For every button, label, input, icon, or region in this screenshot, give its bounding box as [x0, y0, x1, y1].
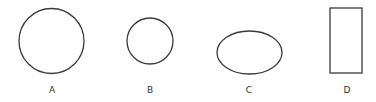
rectangle-d [330, 8, 362, 73]
label-d: D [344, 85, 351, 95]
label-a: A [49, 85, 56, 95]
label-c: C [246, 85, 252, 95]
label-b: B [147, 85, 153, 95]
circle-a [19, 9, 84, 74]
ellipse-c [217, 31, 282, 74]
circle-b [127, 18, 173, 64]
shapes-diagram: A B C D [0, 0, 376, 102]
